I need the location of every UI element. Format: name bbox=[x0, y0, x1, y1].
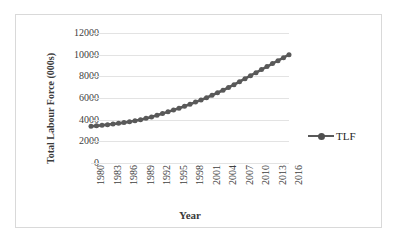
data-point bbox=[276, 58, 281, 63]
x-tick-label: 1989 bbox=[145, 165, 156, 185]
data-point bbox=[100, 123, 105, 128]
x-tick-label: 2007 bbox=[244, 165, 255, 185]
x-tick-label: 2004 bbox=[227, 165, 238, 185]
data-point bbox=[221, 88, 226, 93]
legend-label-tlf: TLF bbox=[336, 130, 356, 142]
chart-legend: TLF bbox=[308, 130, 356, 142]
x-tick-label: 1980 bbox=[95, 165, 106, 185]
data-point bbox=[127, 119, 132, 124]
data-point bbox=[138, 117, 143, 122]
series-line-tlf bbox=[91, 55, 289, 127]
data-point bbox=[281, 55, 286, 60]
data-point bbox=[254, 70, 259, 75]
data-point bbox=[116, 121, 121, 126]
data-point bbox=[215, 90, 220, 95]
data-point bbox=[149, 114, 154, 119]
data-point bbox=[166, 109, 171, 114]
x-tick-label: 1998 bbox=[194, 165, 205, 185]
legend-point-icon bbox=[318, 133, 325, 140]
data-point bbox=[237, 79, 242, 84]
data-point bbox=[265, 64, 270, 69]
data-point bbox=[89, 124, 94, 129]
data-point bbox=[270, 61, 275, 66]
data-point bbox=[287, 52, 292, 57]
data-point bbox=[210, 93, 215, 98]
data-point bbox=[122, 120, 127, 125]
data-point bbox=[248, 73, 253, 78]
legend-marker-icon bbox=[308, 131, 334, 141]
data-point bbox=[171, 108, 176, 113]
chart-frame: Total Labour Force (000s) 02000400060008… bbox=[15, 14, 382, 228]
data-point bbox=[160, 111, 165, 116]
data-point bbox=[182, 104, 187, 109]
x-tick-label: 2010 bbox=[260, 165, 271, 185]
data-point bbox=[177, 106, 182, 111]
data-point bbox=[105, 122, 110, 127]
x-tick-label: 2013 bbox=[277, 165, 288, 185]
data-point bbox=[204, 95, 209, 100]
plot-area bbox=[91, 33, 289, 163]
x-tick-label: 1983 bbox=[112, 165, 123, 185]
data-point bbox=[226, 85, 231, 90]
data-point bbox=[155, 113, 160, 118]
data-point bbox=[243, 76, 248, 81]
data-point bbox=[144, 116, 149, 121]
chart-root: Total Labour Force (000s) 02000400060008… bbox=[0, 0, 397, 248]
series-svg bbox=[91, 33, 289, 163]
data-point bbox=[133, 118, 138, 123]
data-point bbox=[199, 97, 204, 102]
x-tick-label: 1992 bbox=[161, 165, 172, 185]
data-point bbox=[111, 122, 116, 127]
data-point bbox=[259, 67, 264, 72]
data-point bbox=[94, 123, 99, 128]
gridline bbox=[91, 163, 289, 164]
data-point bbox=[188, 102, 193, 107]
x-tick-label: 1995 bbox=[178, 165, 189, 185]
x-tick-label: 1986 bbox=[128, 165, 139, 185]
data-point bbox=[193, 100, 198, 105]
x-axis-title: Year bbox=[91, 209, 289, 221]
x-tick-label: 2016 bbox=[293, 165, 304, 185]
x-tick-label: 2001 bbox=[211, 165, 222, 185]
data-point bbox=[232, 82, 237, 87]
x-axis-tick-labels: 1980198319861989199219951998200120042007… bbox=[91, 165, 289, 207]
